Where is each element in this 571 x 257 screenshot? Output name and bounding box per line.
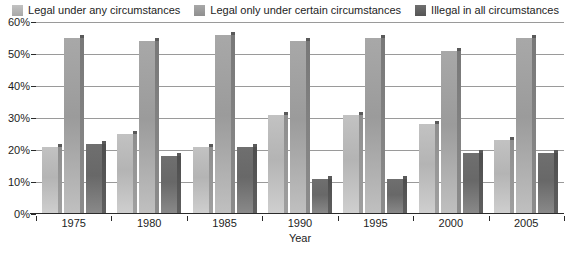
legend-item-0: Legal under any circumstances <box>12 5 180 16</box>
legend-item-2: Illegal in all circumstances <box>415 5 559 16</box>
bar-top-cap <box>403 176 407 179</box>
bar[interactable] <box>441 51 461 214</box>
bar-wrap <box>193 147 213 214</box>
bar-side <box>306 41 310 214</box>
bar[interactable] <box>538 153 558 214</box>
bar-top-cap <box>554 150 558 153</box>
bar-wrap <box>161 156 181 214</box>
bar-face <box>463 153 479 214</box>
bar-group <box>187 22 262 214</box>
bar[interactable] <box>343 115 363 214</box>
bar-face <box>237 147 253 214</box>
bar[interactable] <box>268 115 288 214</box>
bar-top-cap <box>457 48 461 51</box>
bar-wrap <box>387 179 407 214</box>
bar-top-cap <box>177 153 181 156</box>
bar-group <box>36 22 111 214</box>
bar-face <box>139 41 155 214</box>
bar-top-cap <box>435 121 439 124</box>
bar-top-cap <box>102 141 106 144</box>
x-axis-labels: 1975198019851990199520002005 <box>36 216 564 232</box>
bar-side <box>554 153 558 214</box>
x-tick-label: 1975 <box>36 216 111 232</box>
bar-wrap <box>215 35 235 214</box>
bar-face <box>312 179 328 214</box>
bar[interactable] <box>139 41 159 214</box>
x-axis-baseline <box>30 213 564 215</box>
bar-side <box>284 115 288 214</box>
legend-item-1: Legal only under certain circumstances <box>194 5 401 16</box>
bar-wrap <box>237 147 257 214</box>
bar[interactable] <box>215 35 235 214</box>
bar[interactable] <box>237 147 257 214</box>
x-tick-mark <box>36 216 37 221</box>
bar-side <box>155 41 159 214</box>
bar-side <box>231 35 235 214</box>
bar[interactable] <box>64 38 84 214</box>
bar-side <box>58 147 62 214</box>
bar[interactable] <box>290 41 310 214</box>
x-tick-label: 2005 <box>489 216 564 232</box>
bar-face <box>268 115 284 214</box>
bar-group <box>262 22 337 214</box>
x-tick-mark <box>489 216 490 221</box>
bar-wrap <box>312 179 332 214</box>
bar[interactable] <box>161 156 181 214</box>
bar-group <box>413 22 488 214</box>
bar[interactable] <box>463 153 483 214</box>
bar[interactable] <box>419 124 439 214</box>
bar-wrap <box>64 38 84 214</box>
bar-face <box>64 38 80 214</box>
bar-face <box>538 153 554 214</box>
y-tick-label: 50% <box>8 49 30 60</box>
bar-group <box>489 22 564 214</box>
y-tick-label: 60% <box>8 17 30 28</box>
bar-group <box>111 22 186 214</box>
bar[interactable] <box>516 38 536 214</box>
bar[interactable] <box>312 179 332 214</box>
bar-side <box>177 156 181 214</box>
bar-side <box>532 38 536 214</box>
y-tick-label: 0% <box>14 209 30 220</box>
y-tick-mark <box>31 214 36 215</box>
bar-face <box>290 41 306 214</box>
bar-face <box>42 147 58 214</box>
bar-side <box>510 140 514 214</box>
bar[interactable] <box>117 134 137 214</box>
bar-wrap <box>516 38 536 214</box>
bar-face <box>161 156 177 214</box>
x-tick-label: 1995 <box>338 216 413 232</box>
bar-wrap <box>494 140 514 214</box>
bar-side <box>80 38 84 214</box>
bar-side <box>102 144 106 214</box>
legend-label-0: Legal under any circumstances <box>28 5 180 16</box>
x-tick-mark <box>187 216 188 221</box>
bar-face <box>343 115 359 214</box>
bar-wrap <box>86 144 106 214</box>
bar[interactable] <box>193 147 213 214</box>
bar-top-cap <box>209 144 213 147</box>
bar-face <box>86 144 102 214</box>
bar-side <box>328 179 332 214</box>
bar-face <box>441 51 457 214</box>
x-tick-mark <box>338 216 339 221</box>
bar[interactable] <box>365 38 385 214</box>
bar[interactable] <box>387 179 407 214</box>
x-axis-title: Year <box>36 232 564 245</box>
bar-wrap <box>343 115 363 214</box>
legend-label-1: Legal only under certain circumstances <box>210 5 401 16</box>
bar-top-cap <box>253 144 257 147</box>
bar[interactable] <box>42 147 62 214</box>
bar[interactable] <box>494 140 514 214</box>
bar-face <box>215 35 231 214</box>
bar-side <box>253 147 257 214</box>
bar-wrap <box>463 153 483 214</box>
bar-side <box>435 124 439 214</box>
bar-top-cap <box>133 131 137 134</box>
bar-side <box>133 134 137 214</box>
bar-face <box>419 124 435 214</box>
bar[interactable] <box>86 144 106 214</box>
x-tick-label: 1980 <box>111 216 186 232</box>
bar-side <box>359 115 363 214</box>
grouped-bar-chart: Legal under any circumstances Legal only… <box>0 0 571 257</box>
